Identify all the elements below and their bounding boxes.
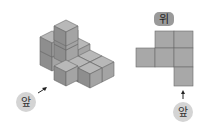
front-label-right: 앞	[173, 102, 193, 122]
front-label-left: 앞	[16, 92, 36, 112]
top-view-title: 위	[154, 12, 174, 26]
top-view-grid	[136, 31, 193, 86]
